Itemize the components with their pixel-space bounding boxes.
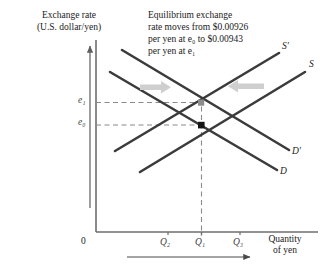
x-axis-title-line2: of yen	[258, 245, 312, 256]
x-axis-title-line1: Quantity	[258, 234, 312, 245]
tick-label-e1: e₁	[78, 95, 86, 106]
annotation-line-1: Equilibrium exchange	[148, 10, 232, 21]
exchange-rate-diagram: Exchange rate (U.S. dollar/yen) Equilibr…	[0, 0, 324, 272]
y-axis-title-line2: (U.S. dollar/yen)	[8, 22, 130, 33]
tick-label-q2: Q₂	[160, 237, 170, 248]
annotation-line-2: rate moves from $0.00926	[148, 22, 248, 33]
tick-label-q1: Q₁	[195, 237, 205, 248]
annotation-line-4: per yen at e₁	[148, 46, 195, 57]
curve-label-demand-prime: D′	[292, 146, 301, 157]
curve-label-supply: S	[309, 59, 314, 70]
curve-demand-prime	[122, 50, 289, 150]
y-axis-title-line1: Exchange rate	[8, 10, 130, 21]
right-shift-arrow	[228, 80, 264, 93]
curve-label-demand: D	[280, 166, 287, 177]
equilibrium-point-new	[198, 100, 204, 106]
curve-label-supply-prime: S′	[282, 41, 289, 52]
equilibrium-point-old	[198, 122, 205, 129]
origin-label: 0	[81, 236, 86, 247]
annotation-line-3: per yen at e₀ to $0.00943	[148, 34, 243, 45]
tick-label-e0: e₀	[78, 117, 86, 128]
tick-label-q3: Q₃	[233, 237, 243, 248]
